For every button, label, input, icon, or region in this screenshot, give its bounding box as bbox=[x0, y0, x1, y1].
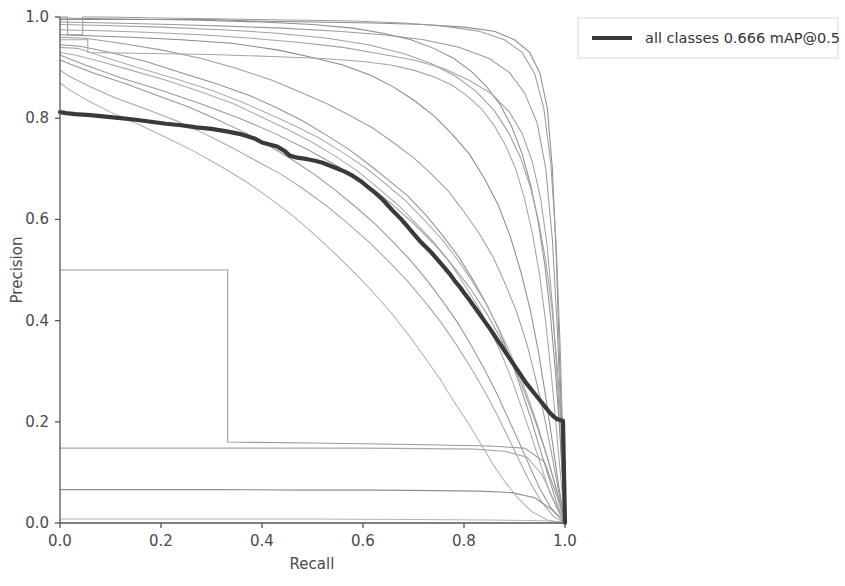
x-tick-label-1: 0.2 bbox=[149, 532, 173, 550]
y-tick-label-5: 1.0 bbox=[25, 8, 49, 26]
y-tick-label-0: 0.0 bbox=[25, 514, 49, 532]
legend: all classes 0.666 mAP@0.5 bbox=[578, 18, 840, 58]
y-tick-label-1: 0.2 bbox=[25, 413, 49, 431]
x-tick-label-0: 0.0 bbox=[48, 532, 72, 550]
x-tick-label-2: 0.4 bbox=[250, 532, 274, 550]
precision-recall-chart: 0.00.20.40.60.81.0 0.00.20.40.60.81.0 Re… bbox=[0, 0, 845, 586]
x-tick-label-5: 1.0 bbox=[553, 532, 577, 550]
y-tick-label-4: 0.8 bbox=[25, 109, 49, 127]
y-axis-title: Precision bbox=[8, 237, 26, 304]
x-axis-title: Recall bbox=[290, 555, 335, 573]
y-tick-label-2: 0.4 bbox=[25, 312, 49, 330]
x-tick-label-3: 0.6 bbox=[351, 532, 375, 550]
y-axis-ticks: 0.00.20.40.60.81.0 bbox=[25, 8, 60, 532]
y-tick-label-3: 0.6 bbox=[25, 210, 49, 228]
x-tick-label-4: 0.8 bbox=[452, 532, 476, 550]
figure-canvas: 0.00.20.40.60.81.0 0.00.20.40.60.81.0 Re… bbox=[0, 0, 845, 586]
x-axis-ticks: 0.00.20.40.60.81.0 bbox=[48, 523, 577, 550]
legend-label-all-classes: all classes 0.666 mAP@0.5 bbox=[645, 30, 840, 46]
